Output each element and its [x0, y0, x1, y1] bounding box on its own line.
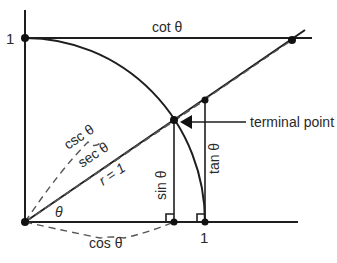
terminal-arrow-head: [180, 115, 192, 129]
unit-circle-diagram: 1 1 cot θ csc θ sec θ r = 1 sin θ tan θ …: [0, 0, 337, 263]
label-x-one: 1: [200, 229, 208, 246]
label-theta: θ: [55, 204, 63, 220]
point-tan: [202, 97, 209, 104]
unit-circle-arc: [25, 38, 205, 222]
label-cos: cos θ: [89, 235, 123, 251]
point-x-one: [202, 219, 209, 226]
point-y-one: [21, 34, 29, 42]
label-cot: cot θ: [152, 19, 183, 35]
point-cot: [288, 36, 296, 44]
label-y-one: 1: [6, 30, 14, 47]
point-terminal: [170, 116, 178, 124]
label-tan: tan θ: [206, 143, 222, 174]
label-radius: r = 1: [96, 159, 128, 188]
label-terminal-point: terminal point: [250, 114, 334, 130]
label-sin: sin θ: [153, 170, 169, 200]
point-cos: [171, 219, 178, 226]
point-origin: [21, 218, 29, 226]
